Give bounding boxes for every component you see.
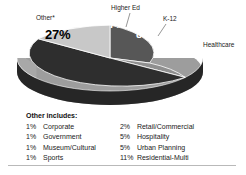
legend-percent: 1% (26, 122, 43, 131)
legend-label: Residential-Multi (137, 153, 194, 162)
pie-label-k12: K-12 (163, 15, 177, 22)
pie-value-higher-ed: 7% (109, 18, 125, 30)
legend-label: Government (43, 132, 96, 141)
footer-divider (8, 165, 236, 166)
legend-label: Hospitality (137, 132, 194, 141)
other-includes-legend: Other includes: 1% Corporate 1% Governme… (26, 112, 226, 162)
pie-value-other: 27% (45, 27, 70, 42)
list-item: 1% Museum/Cultural (26, 143, 96, 152)
legend-percent: 2% (120, 122, 137, 131)
list-item: 11% Residential-Multi (120, 153, 194, 162)
legend-percent: 1% (26, 132, 43, 141)
legend-percent: 5% (120, 132, 137, 141)
other-includes-column-right: 2% Retail/Commercial 5% Hospitality 5% U… (120, 122, 194, 163)
legend-label: Sports (43, 153, 96, 162)
list-item: 5% Urban Planning (120, 143, 194, 152)
list-item: 5% Hospitality (120, 132, 194, 141)
pie-label-other: Other* (36, 14, 55, 21)
pie-chart-plot-area: Other* Higher Ed K-12 Healthcare 27% 7% … (0, 0, 246, 112)
legend-percent: 11% (120, 153, 137, 162)
list-item: 1% Sports (26, 153, 96, 162)
pie-label-healthcare: Healthcare (203, 41, 234, 48)
other-includes-title: Other includes: (26, 112, 226, 119)
legend-percent: 1% (26, 153, 43, 162)
other-includes-column-left: 1% Corporate 1% Government 1% Museum/Cul… (26, 122, 96, 163)
leader-line-higher-ed (126, 13, 130, 27)
legend-label: Retail/Commercial (137, 122, 194, 131)
list-item: 1% Government (26, 132, 96, 141)
pie-label-higher-ed: Higher Ed (111, 4, 140, 11)
pie-chart-figure: Other* Higher Ed K-12 Healthcare 27% 7% … (0, 0, 246, 175)
list-item: 2% Retail/Commercial (120, 122, 194, 131)
list-item: 1% Corporate (26, 122, 96, 131)
legend-label: Museum/Cultural (43, 143, 96, 152)
pie-value-k12: 8% (136, 28, 152, 40)
legend-percent: 5% (120, 143, 137, 152)
legend-label: Corporate (43, 122, 96, 131)
pie-value-healthcare: 49% (161, 42, 184, 56)
legend-percent: 1% (26, 143, 43, 152)
legend-label: Urban Planning (137, 143, 194, 152)
